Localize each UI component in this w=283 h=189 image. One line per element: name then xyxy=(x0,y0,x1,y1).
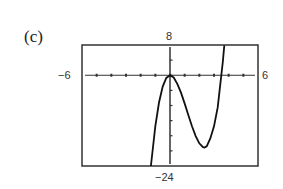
graph-window xyxy=(0,0,283,189)
function-curve xyxy=(151,45,224,166)
axes xyxy=(85,47,255,164)
